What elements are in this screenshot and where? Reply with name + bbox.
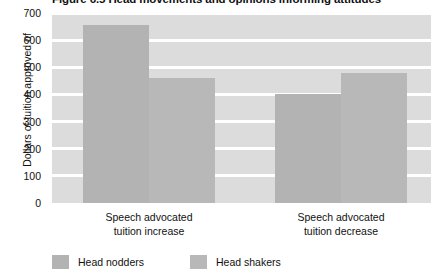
y-axis-tick-label: 100 xyxy=(23,170,41,182)
y-axis-tick-labels: 0100200300400500600700 xyxy=(0,13,47,203)
x-axis-category-label: Speech advocatedtuition decrease xyxy=(261,210,421,238)
x-axis-category-label-line: tuition decrease xyxy=(261,224,421,238)
y-axis-tick-label: 400 xyxy=(23,88,41,100)
y-axis-tick-label: 300 xyxy=(23,116,41,128)
y-axis-tick-label: 600 xyxy=(23,34,41,46)
legend-label: Head nodders xyxy=(78,256,144,268)
legend-entry: Head nodders xyxy=(52,255,144,269)
bar xyxy=(275,94,341,203)
x-axis-category-label: Speech advocatedtuition increase xyxy=(69,210,229,238)
y-axis-tick-label: 500 xyxy=(23,61,41,73)
x-axis-category-label-line: Speech advocated xyxy=(69,210,229,224)
legend-entry: Head shakers xyxy=(190,255,281,269)
x-axis-category-label-line: Speech advocated xyxy=(261,210,421,224)
bar xyxy=(83,25,149,203)
plot-area xyxy=(52,13,431,203)
x-axis-category-label-line: tuition increase xyxy=(69,224,229,238)
y-axis-tick-label: 0 xyxy=(35,197,41,209)
bar xyxy=(149,78,215,203)
y-axis-tick-label: 700 xyxy=(23,7,41,19)
chart-legend: Head noddersHead shakers xyxy=(52,253,281,271)
bar xyxy=(341,73,407,203)
bar-chart: Dollars of tuition approved of 010020030… xyxy=(0,0,437,279)
legend-swatch-icon xyxy=(52,255,69,269)
gridline xyxy=(52,13,431,15)
legend-label: Head shakers xyxy=(216,256,281,268)
x-axis-category-labels: Speech advocatedtuition increaseSpeech a… xyxy=(52,210,431,244)
y-axis-tick-label: 200 xyxy=(23,143,41,155)
legend-swatch-icon xyxy=(190,255,207,269)
